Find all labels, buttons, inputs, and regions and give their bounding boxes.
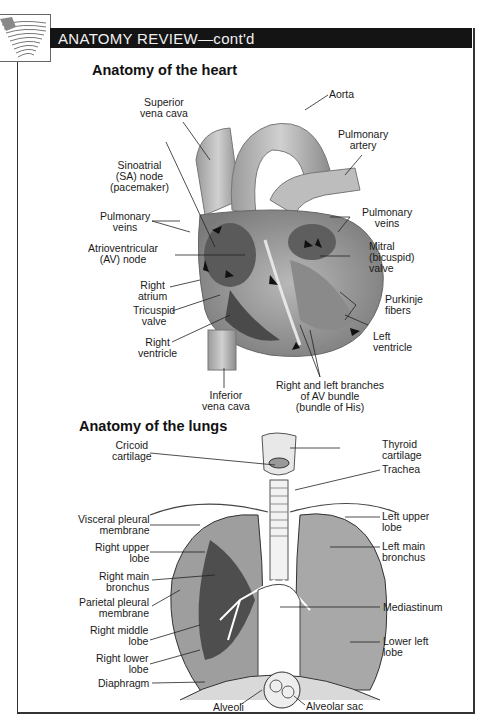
label-thyroid-cartilage: Thyroidcartilage xyxy=(382,439,422,461)
label-right-main-bronchus: Right mainbronchus xyxy=(99,571,149,593)
label-right-lower-lobe: Right lowerlobe xyxy=(96,653,149,675)
label-trachea: Trachea xyxy=(382,464,420,475)
label-alveolar-sac: Alveolar sac xyxy=(306,701,363,712)
lungs-illustration xyxy=(0,0,488,725)
label-parietal-pleural-membrane: Parietal pleuralmembrane xyxy=(79,597,149,619)
label-mediastinum: Mediastinum xyxy=(383,602,443,613)
label-lower-left-lobe: Lower leftlobe xyxy=(383,636,429,658)
label-cricoid-cartilage: Cricoidcartilage xyxy=(112,440,152,462)
label-visceral-pleural-membrane: Visceral pleuralmembrane xyxy=(78,514,150,536)
label-left-main-bronchus: Left mainbronchus xyxy=(382,541,425,563)
label-right-upper-lobe: Right upperlobe xyxy=(95,542,149,564)
label-alveoli: Alveoli xyxy=(213,702,244,713)
label-right-middle-lobe: Right middlelobe xyxy=(90,625,148,647)
label-left-upper-lobe: Left upperlobe xyxy=(382,511,429,533)
label-diaphragm: Diaphragm xyxy=(98,678,149,689)
